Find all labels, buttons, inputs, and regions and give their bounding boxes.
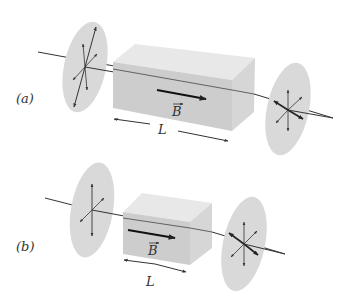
polarizer-disk-a-right — [258, 59, 319, 160]
length-label-b: L — [145, 274, 155, 289]
panel-label-a: (a) — [16, 91, 34, 106]
length-label-a: L — [157, 122, 167, 137]
magneto-optic-block-b: B — [123, 193, 212, 265]
field-label-b: B — [147, 243, 158, 258]
panel-label-b: (b) — [16, 239, 34, 254]
magneto-optic-block-a: B — [113, 44, 255, 131]
field-label-a: B — [171, 104, 182, 119]
panel-b: B L (b) — [16, 159, 285, 295]
panel-a: B L (a) — [16, 18, 333, 160]
faraday-rotation-diagram: B L (a) — [0, 0, 348, 307]
